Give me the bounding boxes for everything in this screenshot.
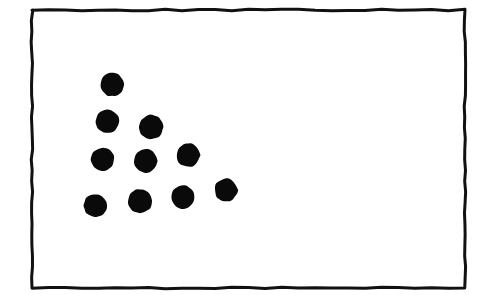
- dot-pattern-figure: [0, 0, 487, 295]
- figure-background: [0, 0, 487, 295]
- dot-marker: [128, 189, 152, 213]
- figure-canvas: [0, 0, 487, 295]
